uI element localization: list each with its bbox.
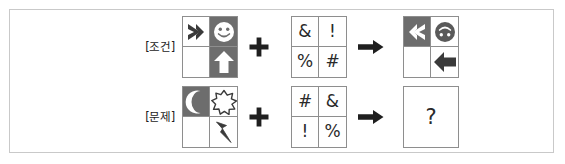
condition-rule-cell-bottom-left: %	[292, 47, 319, 77]
condition-result-cell-top-right	[431, 17, 458, 47]
question-rule-cell-top-right: &	[319, 87, 346, 117]
condition-row: [조건]	[10, 12, 553, 82]
condition-rule-cell-bottom-right: #	[319, 47, 346, 77]
puzzle-frame: [조건]	[9, 9, 554, 153]
smiley-face-icon	[212, 20, 236, 44]
condition-row-label: [조건]	[113, 38, 175, 54]
arrow-left-icon	[432, 50, 458, 74]
condition-input-cell-top-right	[210, 17, 237, 47]
crescent-moon-icon	[184, 89, 208, 115]
starburst-icon	[211, 89, 237, 115]
question-arrow-operator	[358, 107, 384, 127]
question-row-label: [문제]	[113, 108, 175, 124]
question-input-cell-top-left	[183, 87, 210, 117]
question-rule-cell-top-left: #	[292, 87, 319, 117]
question-rule-grid: # & ! %	[291, 86, 347, 148]
condition-rule-cell-top-right: !	[319, 17, 346, 47]
question-input-cell-bottom-left	[183, 117, 210, 147]
question-input-grid	[182, 86, 238, 148]
question-result-box: ?	[403, 86, 459, 148]
lightning-bolt-icon	[212, 119, 236, 145]
condition-rule-grid: & ! % #	[291, 16, 347, 78]
arrow-up-icon	[212, 49, 236, 75]
chevron-left-icon	[404, 19, 430, 45]
condition-result-cell-top-left	[404, 17, 431, 47]
question-rule-cell-bottom-right: %	[319, 117, 346, 147]
question-row: [문제]	[10, 82, 553, 152]
condition-result-grid	[403, 16, 459, 78]
chevron-right-icon	[183, 19, 209, 45]
condition-input-grid	[182, 16, 238, 78]
condition-input-cell-bottom-right	[210, 47, 237, 77]
condition-result-cell-bottom-right	[431, 47, 458, 77]
condition-rule-cell-top-left: &	[292, 17, 319, 47]
condition-result-cell-bottom-left	[404, 47, 431, 77]
question-rule-cell-bottom-left: !	[292, 117, 319, 147]
condition-plus-operator	[247, 35, 271, 59]
condition-arrow-operator	[358, 37, 384, 57]
question-input-cell-top-right	[210, 87, 237, 117]
question-plus-operator	[247, 105, 271, 129]
question-input-cell-bottom-right	[210, 117, 237, 147]
condition-input-cell-bottom-left	[183, 47, 210, 77]
smiley-face-inverted-icon	[433, 20, 457, 44]
condition-input-cell-top-left	[183, 17, 210, 47]
